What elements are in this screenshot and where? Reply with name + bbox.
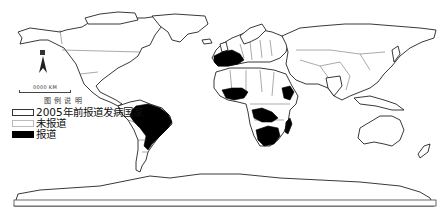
north-arrow-icon: [38, 50, 48, 74]
legend-item-reported: 报道: [12, 129, 143, 140]
map-bottom-frame: [14, 200, 436, 206]
iceland: [202, 39, 212, 44]
legend-swatch-white: [12, 120, 34, 127]
new-zealand: [418, 144, 430, 158]
scale-bar-line: [19, 90, 71, 93]
legend-label: 报道: [36, 129, 56, 140]
legend-item-pre2005: 2005年前报道发病国家: [12, 107, 143, 118]
arctic-islands: [85, 12, 138, 24]
legend: 图 例 说 明 2005年前报道发病国家 未报道 报道: [12, 96, 143, 140]
asia: [282, 24, 436, 100]
scale-bar: 0000 KM: [19, 84, 71, 93]
australia: [358, 116, 404, 146]
legend-swatch-black: [12, 131, 34, 138]
legend-swatch-outline: [12, 109, 34, 116]
west-africa-reported: [222, 88, 248, 100]
africa: [214, 68, 298, 146]
legend-item-not-reported: 未报道: [12, 118, 143, 129]
uk: [220, 42, 228, 52]
se-asia-islands: [354, 96, 404, 110]
